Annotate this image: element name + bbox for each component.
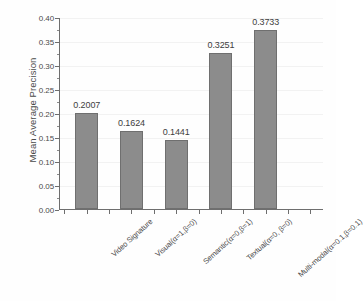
gridline — [60, 18, 323, 19]
y-minor-tick-mark — [57, 198, 59, 199]
bar-value-label: 0.1624 — [118, 118, 145, 128]
gridline — [60, 114, 323, 115]
y-tick-mark — [55, 90, 59, 91]
y-minor-tick-mark — [57, 126, 59, 127]
gridline — [60, 162, 323, 163]
y-tick-mark — [55, 162, 59, 163]
y-tick-label: 0.25 — [39, 86, 54, 95]
x-axis-spine — [59, 209, 323, 210]
y-tick-label: 0.40 — [39, 14, 54, 23]
y-tick-mark — [55, 210, 59, 211]
x-tick-label: Visual(α=1,β=0) — [154, 217, 199, 259]
bar-value-label: 0.3733 — [252, 17, 279, 27]
x-tick-label: Semantic(α=0,β=1) — [201, 217, 254, 266]
x-tick-mark — [176, 210, 177, 214]
gridline — [60, 186, 323, 187]
plot-area: 0.000.050.100.150.200.250.300.350.40 0.2… — [59, 18, 323, 210]
x-tick-mark — [243, 210, 244, 214]
y-minor-tick-mark — [57, 150, 59, 151]
x-tick-mark — [87, 210, 88, 214]
bar-value-label: 0.3251 — [208, 40, 235, 50]
bar — [165, 140, 188, 209]
y-tick-mark — [55, 138, 59, 139]
x-tick-mark — [266, 210, 267, 214]
x-tick-label: Video Signature — [109, 217, 154, 259]
y-tick-mark — [55, 42, 59, 43]
y-minor-tick-mark — [57, 174, 59, 175]
bar — [254, 30, 277, 209]
gridline — [60, 138, 323, 139]
x-tick-mark — [131, 210, 132, 214]
y-tick-label: 0.05 — [39, 182, 54, 191]
y-tick-label: 0.10 — [39, 158, 54, 167]
bar — [120, 131, 143, 209]
gridline — [60, 66, 323, 67]
x-tick-mark — [288, 210, 289, 214]
x-tick-mark — [221, 210, 222, 214]
bar — [209, 53, 232, 209]
y-minor-tick-mark — [57, 102, 59, 103]
x-tick-label: Multi-modal(α=0.1,β=0.1) — [296, 217, 364, 279]
bar-value-label: 0.2007 — [73, 100, 100, 110]
x-tick-mark — [109, 210, 110, 214]
y-minor-tick-mark — [57, 30, 59, 31]
y-tick-mark — [55, 114, 59, 115]
y-tick-label: 0.30 — [39, 62, 54, 71]
y-minor-tick-mark — [57, 54, 59, 55]
y-minor-tick-mark — [57, 78, 59, 79]
x-tick-mark — [154, 210, 155, 214]
x-tick-mark — [199, 210, 200, 214]
y-tick-mark — [55, 66, 59, 67]
bar-value-label: 0.1441 — [163, 127, 190, 137]
y-tick-label: 0.20 — [39, 110, 54, 119]
y-tick-label: 0.00 — [39, 206, 54, 215]
bar — [75, 113, 98, 209]
x-tick-mark — [310, 210, 311, 214]
y-tick-mark — [55, 18, 59, 19]
y-tick-label: 0.35 — [39, 38, 54, 47]
gridline — [60, 90, 323, 91]
gridline — [60, 42, 323, 43]
y-tick-label: 0.15 — [39, 134, 54, 143]
y-tick-mark — [55, 186, 59, 187]
x-tick-mark — [64, 210, 65, 214]
